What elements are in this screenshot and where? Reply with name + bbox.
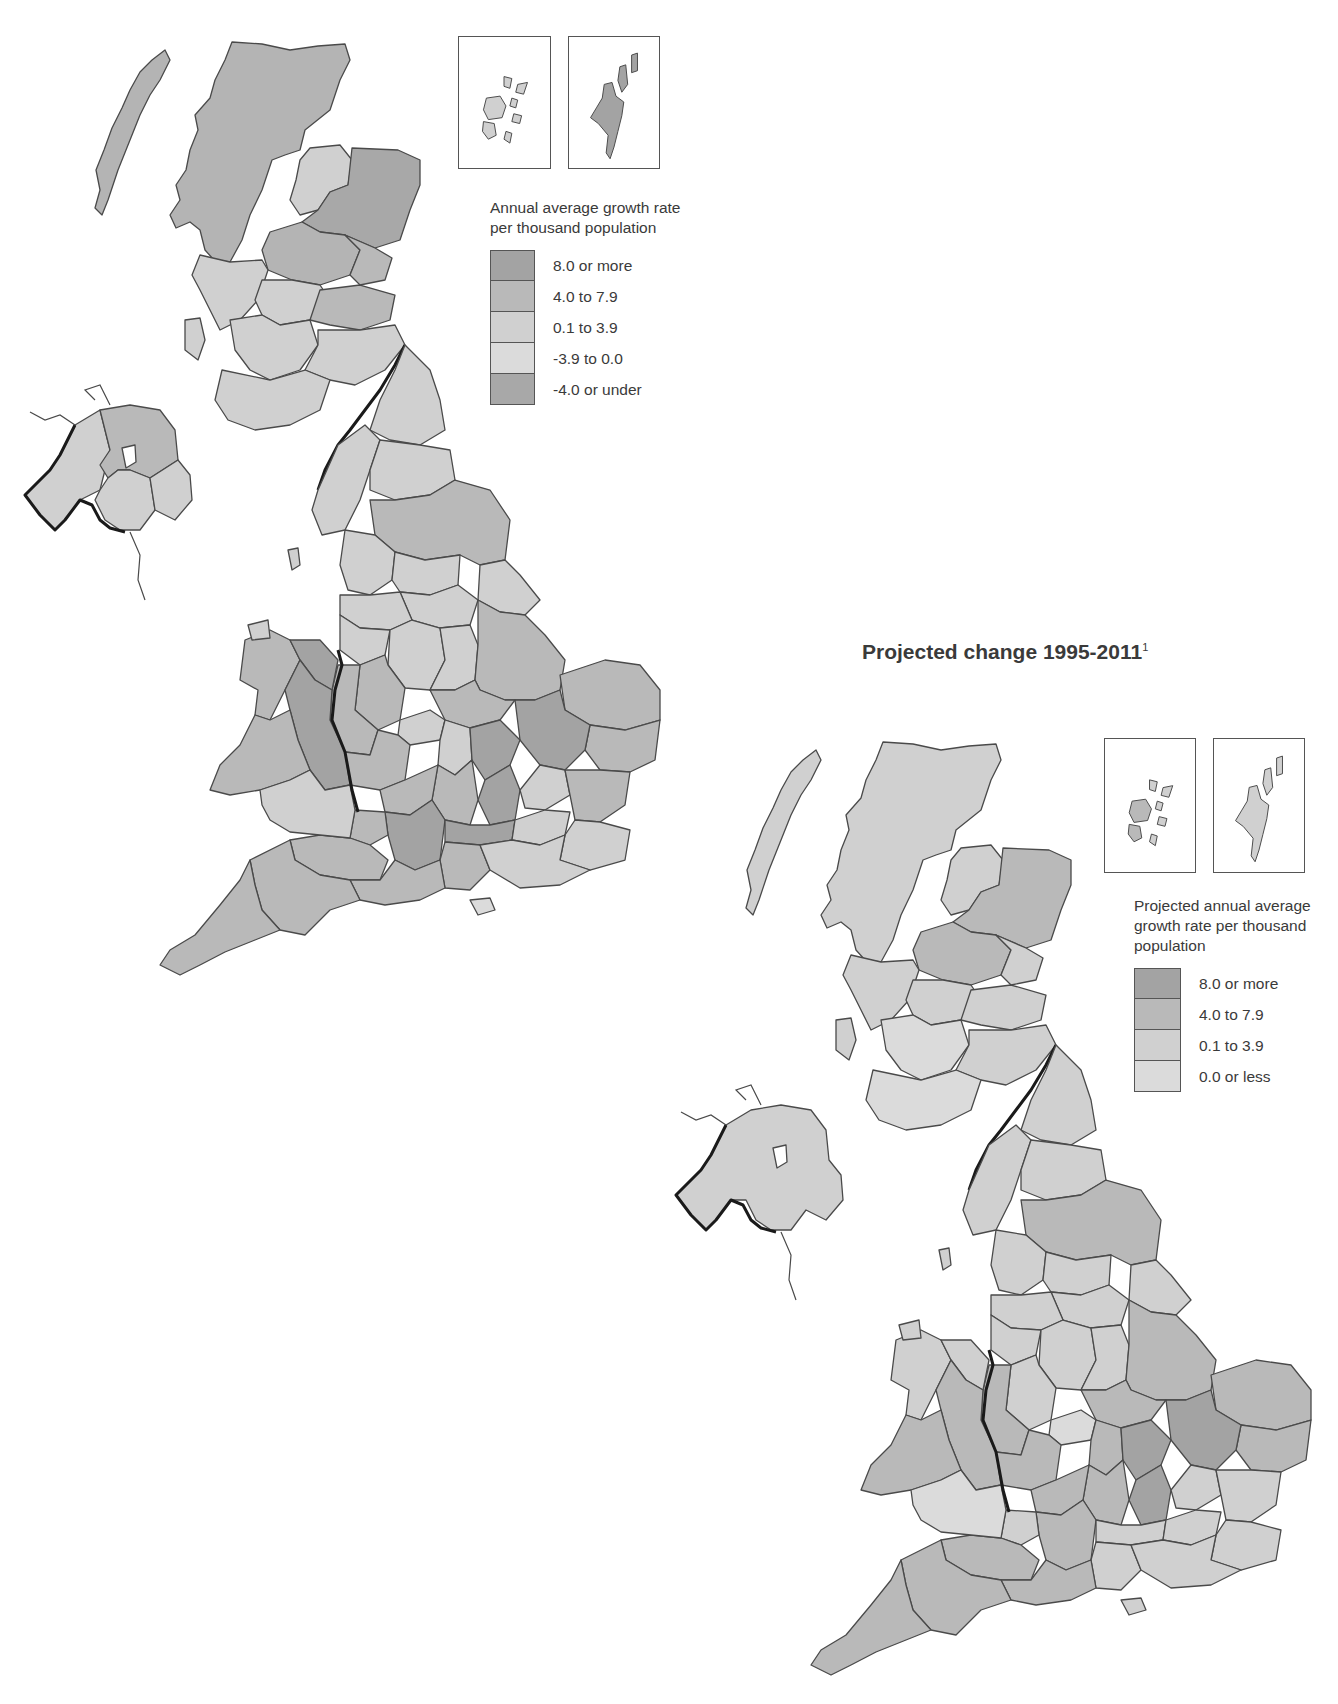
legend-item: 4.0 to 7.9	[1134, 999, 1311, 1030]
legend-swatch	[1134, 1061, 1181, 1092]
region-hertfordshire	[1171, 1465, 1221, 1510]
legend-label: 4.0 to 7.9	[1199, 1006, 1264, 1024]
legend-item: 0.1 to 3.9	[1134, 1030, 1311, 1061]
legend-item: 0.0 or less	[1134, 1061, 1311, 1092]
legend-title: Projected annual average growth rate per…	[1134, 896, 1311, 956]
region-anglesey	[899, 1320, 921, 1340]
map-2-england-wales	[811, 1045, 1311, 1675]
region-lincolnshire	[1126, 1300, 1216, 1400]
legend-label: 0.1 to 3.9	[1199, 1037, 1264, 1055]
region-isle-of-wight	[1121, 1598, 1146, 1615]
region-west-midlands	[1049, 1410, 1096, 1445]
legend-title-line: population	[1134, 936, 1311, 956]
region-lothian	[961, 985, 1046, 1030]
region-isle-of-man	[939, 1248, 951, 1270]
legend-label: 8.0 or more	[1199, 975, 1278, 993]
region-arran	[836, 1018, 856, 1060]
legend-swatch	[1134, 999, 1181, 1030]
legend-title-line: Projected annual average	[1134, 896, 1311, 916]
legend-map-2: Projected annual average growth rate per…	[1134, 896, 1311, 1092]
inset-orkney-map-2	[1104, 738, 1196, 873]
map-2-scotland	[746, 742, 1071, 1130]
orkney-islands-icon	[1105, 739, 1195, 872]
legend-swatch	[1134, 1030, 1181, 1061]
inset-shetland-map-2	[1213, 738, 1305, 873]
legend-swatch	[1134, 968, 1181, 999]
shetland-islands-icon	[1214, 739, 1304, 872]
region-western-isles	[746, 750, 821, 915]
region-dumfries	[866, 1070, 981, 1130]
legend-title-line: growth rate per thousand	[1134, 916, 1311, 936]
legend-label: 0.0 or less	[1199, 1068, 1271, 1086]
region-essex	[1216, 1470, 1281, 1522]
legend-item: 8.0 or more	[1134, 968, 1311, 999]
region-kent	[1211, 1520, 1281, 1570]
